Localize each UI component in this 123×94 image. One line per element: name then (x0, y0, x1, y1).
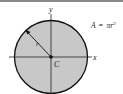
formula-lhs: A (90, 21, 96, 30)
area-formula: A = πr2 (90, 21, 116, 30)
radius-label: r (36, 40, 39, 48)
x-axis-label: x (92, 53, 97, 62)
y-axis-label: y (48, 5, 53, 14)
formula-eq: = (99, 21, 103, 30)
formula-exponent: 2 (113, 21, 116, 26)
centroid-label: C (54, 60, 60, 69)
circle-area-diagram: y x C r A = πr2 (0, 0, 123, 94)
centroid-dot (49, 55, 53, 59)
